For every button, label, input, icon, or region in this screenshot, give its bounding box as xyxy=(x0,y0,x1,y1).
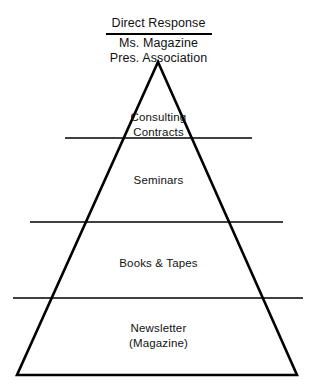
header-subtitle-line-1: Ms. Magazine xyxy=(0,37,317,50)
pyramid-diagram: Direct Response Ms. Magazine Pres. Assoc… xyxy=(0,0,317,392)
header-subtitle-line-2: Pres. Association xyxy=(0,52,317,65)
header-underline-rule xyxy=(106,33,212,36)
tier-books-line-1: Books & Tapes xyxy=(0,256,317,271)
tier-label-newsletter: Newsletter (Magazine) xyxy=(0,321,317,350)
tier-label-consulting-contracts: Consulting Contracts xyxy=(0,110,317,139)
tier-label-seminars: Seminars xyxy=(0,173,317,188)
tier-consulting-line-1: Consulting xyxy=(0,110,317,125)
tier-newsletter-line-2: (Magazine) xyxy=(0,336,317,351)
tier-label-books-and-tapes: Books & Tapes xyxy=(0,256,317,271)
tier-newsletter-line-1: Newsletter xyxy=(0,321,317,336)
tier-consulting-line-2: Contracts xyxy=(0,125,317,140)
diagram-header: Direct Response Ms. Magazine Pres. Assoc… xyxy=(0,14,317,64)
header-title: Direct Response xyxy=(112,17,206,31)
tier-seminars-line-1: Seminars xyxy=(0,173,317,188)
